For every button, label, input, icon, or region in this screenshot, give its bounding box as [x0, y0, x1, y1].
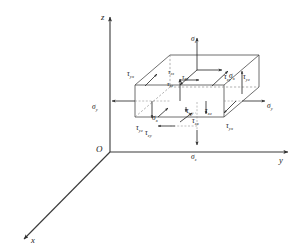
tau-xz-topmid-label: τxz — [167, 73, 173, 89]
sigma-z-bottom-label: σz — [191, 146, 196, 162]
tau-zy-bottom-label: τzy — [145, 122, 151, 138]
tau-yx-right-label: τyx — [226, 115, 233, 131]
y-axis-label: y — [279, 156, 283, 165]
tau-zx-bottom-label: τzx — [192, 110, 198, 126]
sigma-y-right-label: σy — [267, 95, 273, 111]
coordinate-axes — [24, 17, 288, 239]
sigma-x-bottom-label: σx — [152, 107, 158, 123]
x-axis-label: x — [31, 236, 35, 245]
sigma-x-top-label: σx — [229, 65, 235, 81]
origin-label: O — [96, 145, 103, 154]
z-axis-label: z — [101, 13, 104, 22]
tau-yz-right-label: τyz — [243, 66, 249, 82]
stress-element-figure: O z y x σz τzy τzx τxy τxz σx τyx σy τyz… — [0, 0, 298, 250]
x-axis — [24, 152, 110, 239]
tau-yz-left-label: τyz — [136, 117, 142, 133]
tau-xz-bottom-label: τxz — [205, 100, 211, 116]
tau-xy-topmid-label: τxy — [182, 66, 188, 82]
tau-yx-left-label: τyx — [127, 63, 134, 79]
sigma-z-top-label: σz — [191, 28, 196, 44]
sigma-y-left-label: σy — [92, 96, 98, 112]
